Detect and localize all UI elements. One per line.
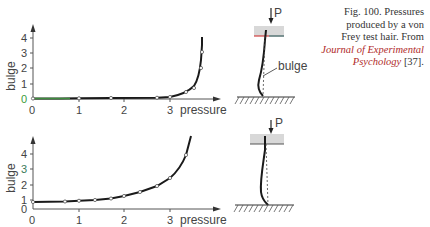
x-tick-1: 1 bbox=[76, 214, 82, 226]
data-points bbox=[31, 50, 203, 100]
y-tick-1: 1 bbox=[21, 78, 27, 90]
x-axis-label: pressure bbox=[180, 213, 227, 227]
force-label: P bbox=[275, 116, 283, 130]
figure-caption: Fig. 100. Pressures produced by a von Fr… bbox=[300, 6, 424, 69]
x-axis-label: pressure bbox=[180, 103, 227, 117]
caption-line: Frey test hair. From bbox=[300, 31, 424, 44]
x-axis-arrow-icon bbox=[213, 97, 221, 102]
x-tick-2: 2 bbox=[121, 214, 127, 226]
hair-straight-reference bbox=[266, 144, 268, 205]
y-axis-label: bulge bbox=[4, 163, 18, 193]
y-axis-label: bulge bbox=[4, 61, 18, 91]
data-curve bbox=[33, 136, 191, 202]
hair-diagram-bottom: P bbox=[234, 116, 294, 212]
y-tick-2: 2 bbox=[21, 62, 27, 74]
y-axis-arrow-icon bbox=[31, 136, 36, 144]
y-tick-0: 0 bbox=[21, 93, 27, 105]
caption-line: Fig. 100. Pressures bbox=[300, 6, 424, 19]
bottom-chart: 4 3 2 1 0 0 1 2 3 pressure bulge bbox=[4, 136, 227, 227]
journal-title: Psychology bbox=[353, 56, 401, 67]
x-tick-0: 0 bbox=[29, 214, 35, 226]
y-tick-0: 0 bbox=[21, 203, 27, 215]
hair-bent bbox=[261, 136, 268, 205]
data-curve bbox=[33, 37, 202, 99]
contact-plate bbox=[250, 134, 284, 144]
y-tick-3: 3 bbox=[21, 47, 27, 59]
hair-bent bbox=[258, 30, 266, 96]
x-tick-0: 0 bbox=[29, 104, 35, 116]
force-label: P bbox=[274, 6, 282, 20]
contact-plate bbox=[254, 26, 284, 36]
y-tick-4: 4 bbox=[21, 148, 27, 160]
top-chart: 4 3 2 1 0 0 1 2 3 pressure bulge bbox=[4, 24, 227, 117]
x-tick-3: 3 bbox=[167, 104, 173, 116]
x-tick-2: 2 bbox=[121, 104, 127, 116]
journal-title: Journal of Experimental bbox=[321, 44, 424, 55]
y-tick-3: 3 bbox=[21, 163, 27, 175]
x-tick-1: 1 bbox=[76, 104, 82, 116]
hair-diagram-top: P bulge bbox=[235, 6, 308, 104]
y-tick-4: 4 bbox=[21, 32, 27, 44]
caption-line: produced by a von bbox=[300, 19, 424, 32]
data-points bbox=[31, 153, 187, 203]
reference-number: [37]. bbox=[401, 56, 424, 67]
y-axis-arrow-icon bbox=[31, 24, 36, 32]
x-tick-3: 3 bbox=[167, 214, 173, 226]
y-tick-2: 2 bbox=[21, 179, 27, 191]
x-axis-arrow-icon bbox=[213, 207, 221, 212]
